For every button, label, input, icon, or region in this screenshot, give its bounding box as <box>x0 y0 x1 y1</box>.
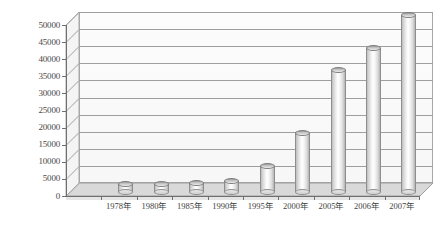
y-axis-tick <box>62 59 67 60</box>
bar-body <box>366 48 381 193</box>
y-axis-tick-label-wrap: 0 <box>0 192 60 201</box>
bar-cylinder <box>118 181 133 192</box>
y-axis-tick <box>62 128 67 129</box>
y-axis-tick <box>62 42 67 43</box>
y-axis-tick <box>62 93 67 94</box>
y-axis-tick-label: 40000 <box>38 55 60 64</box>
gridline-connector <box>66 81 80 95</box>
x-axis-tick-label: 1985年 <box>172 201 207 211</box>
x-axis-tick <box>419 196 420 200</box>
gridline-connector <box>66 132 80 146</box>
y-axis-tick <box>62 162 67 163</box>
bar-top-ellipse <box>331 67 346 73</box>
x-axis-tick <box>172 196 173 200</box>
y-axis-tick-label-wrap: 50000 <box>0 21 60 30</box>
y-axis-tick-label-wrap: 15000 <box>0 140 60 149</box>
y-axis-tick <box>62 111 67 112</box>
bar-cylinder <box>224 178 239 193</box>
x-axis-tick <box>137 196 138 200</box>
y-axis-tick-label: 20000 <box>38 123 60 132</box>
bar-body <box>295 133 310 192</box>
x-axis-tick-label: 2006年 <box>349 201 384 211</box>
bar-base-ellipse <box>331 189 346 195</box>
x-axis-tick-label: 1990年 <box>208 201 243 211</box>
gridline-connector <box>66 115 80 129</box>
bar-cylinder <box>260 163 275 193</box>
bar-base-ellipse <box>401 189 416 195</box>
x-axis-tick-label: 2007年 <box>385 201 420 211</box>
y-axis-tick-label-wrap: 45000 <box>0 38 60 47</box>
gridline-connector <box>66 166 80 180</box>
x-axis-tick <box>385 196 386 200</box>
bar-cylinder <box>154 181 169 192</box>
y-axis-tick-label-wrap: 5000 <box>0 174 60 183</box>
y-axis-tick <box>62 196 67 197</box>
x-axis-tick-label: 1980年 <box>137 201 172 211</box>
bar-base-ellipse <box>154 189 169 195</box>
y-axis-tick-label: 45000 <box>38 38 60 47</box>
x-axis-tick <box>101 196 102 200</box>
y-axis-tick-label: 5000 <box>43 174 60 183</box>
y-axis-tick <box>62 25 67 26</box>
bar-top-ellipse <box>366 45 381 51</box>
bar-cylinder <box>295 130 310 192</box>
bar-cylinder <box>401 12 416 192</box>
gridline-connector <box>66 63 80 77</box>
x-axis-tick-label: 2005年 <box>314 201 349 211</box>
y-axis-tick-label-wrap: 10000 <box>0 157 60 166</box>
y-axis-tick-label-wrap: 40000 <box>0 55 60 64</box>
bar-base-ellipse <box>295 189 310 195</box>
y-axis-tick <box>62 179 67 180</box>
bar-base-ellipse <box>260 189 275 195</box>
y-axis-tick-label: 30000 <box>38 89 60 98</box>
bar-base-ellipse <box>189 189 204 195</box>
x-axis-tick-label: 1978年 <box>101 201 136 211</box>
x-axis-tick <box>278 196 279 200</box>
gridline-connector <box>66 183 80 197</box>
gridline <box>79 12 433 13</box>
gridline-connector <box>66 12 80 26</box>
x-axis-tick <box>208 196 209 200</box>
bar-cylinder <box>331 67 346 193</box>
bar-base-ellipse <box>224 189 239 195</box>
x-axis-tick-label: 1995年 <box>243 201 278 211</box>
bar-base-ellipse <box>118 189 133 195</box>
gridline-connector <box>66 149 80 163</box>
y-axis-tick-label: 15000 <box>38 140 60 149</box>
bar-cylinder <box>366 45 381 193</box>
y-axis-tick-label: 0 <box>56 192 60 201</box>
y-axis-tick-label: 25000 <box>38 106 60 115</box>
gridline-connector <box>66 29 80 43</box>
bar-body <box>401 15 416 192</box>
bar-base-ellipse <box>366 189 381 195</box>
y-axis-tick <box>62 76 67 77</box>
y-axis-tick-label-wrap: 25000 <box>0 106 60 115</box>
y-axis-tick-label-wrap: 20000 <box>0 123 60 132</box>
gridline-connector <box>66 98 80 112</box>
y-axis-tick-label: 10000 <box>38 157 60 166</box>
y-axis-tick-label-wrap: 35000 <box>0 72 60 81</box>
x-axis-tick <box>243 196 244 200</box>
y-axis-tick <box>62 145 67 146</box>
gridline <box>79 29 433 30</box>
gridline-connector <box>66 46 80 60</box>
x-axis-tick-label: 2000年 <box>278 201 313 211</box>
x-axis-tick <box>349 196 350 200</box>
y-axis-tick-label: 35000 <box>38 72 60 81</box>
bar-cylinder <box>189 180 204 193</box>
y-axis-tick-label: 50000 <box>38 21 60 30</box>
bar-top-ellipse <box>260 163 275 169</box>
bar-top-ellipse <box>189 180 204 186</box>
bar-body <box>331 70 346 193</box>
y-axis-tick-label-wrap: 30000 <box>0 89 60 98</box>
bar-top-ellipse <box>154 181 169 187</box>
bar-body <box>260 166 275 193</box>
bar-chart: 5000045000400003500030000250002000015000… <box>0 0 446 231</box>
x-axis-tick <box>314 196 315 200</box>
